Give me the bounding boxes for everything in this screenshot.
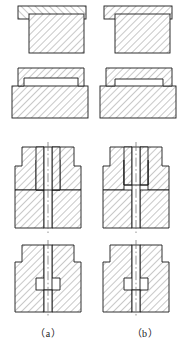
row3a-body-left-lower bbox=[15, 190, 44, 228]
row3a-body-right-lower bbox=[52, 190, 81, 228]
view-row3-col-a bbox=[15, 142, 81, 233]
row4b-body-right bbox=[140, 245, 169, 312]
row3b-inner-right bbox=[140, 147, 148, 185]
row3b-body-right-lower bbox=[140, 190, 169, 228]
row2a-top-plate bbox=[18, 68, 84, 86]
view-row2-col-b bbox=[100, 68, 176, 118]
row4b-body-left bbox=[103, 245, 132, 312]
figure-root: （a） （b） bbox=[0, 0, 193, 342]
row3b-inner-left bbox=[124, 147, 132, 185]
row3b-body-left-lower bbox=[103, 190, 132, 228]
row3a-inner-right bbox=[52, 147, 60, 190]
view-row1-col-b bbox=[104, 6, 172, 53]
row1a-lower-block bbox=[29, 14, 84, 53]
view-row4-col-a bbox=[15, 240, 81, 317]
view-row3-col-b bbox=[103, 142, 169, 233]
row2b-base-block bbox=[100, 86, 176, 118]
row2a-base-block bbox=[12, 86, 88, 118]
caption-b: （b） bbox=[97, 325, 194, 340]
view-row2-col-a bbox=[12, 68, 88, 118]
caption-row: （a） （b） bbox=[0, 325, 193, 340]
view-row4-col-b bbox=[103, 240, 169, 317]
row4a-body-right bbox=[52, 245, 81, 312]
row4a-body-left bbox=[15, 245, 44, 312]
row1b-lower-block bbox=[115, 14, 170, 53]
technical-drawing-canvas bbox=[0, 0, 193, 342]
view-row1-col-a bbox=[18, 6, 86, 53]
row2b-top-plate bbox=[106, 68, 172, 86]
caption-a: （a） bbox=[0, 325, 97, 340]
row3a-inner-left bbox=[36, 147, 44, 190]
